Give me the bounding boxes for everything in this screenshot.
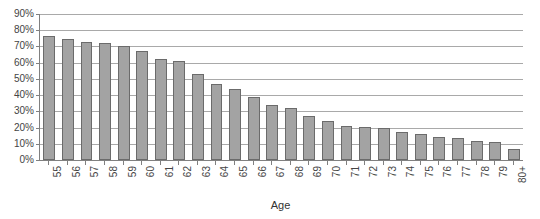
y-axis-tick-label: 30% bbox=[14, 106, 34, 116]
bar-slot bbox=[430, 14, 449, 160]
bar[interactable] bbox=[452, 138, 464, 160]
bar[interactable] bbox=[118, 46, 130, 160]
bar[interactable] bbox=[378, 128, 390, 160]
x-axis-tick-slot bbox=[169, 161, 188, 165]
x-axis-tick-mark bbox=[476, 161, 477, 165]
x-axis-label-slot: 71 bbox=[336, 166, 355, 196]
x-axis-tick-mark bbox=[85, 161, 86, 165]
x-axis-tick-slot bbox=[113, 161, 132, 165]
bar-slot bbox=[486, 14, 505, 160]
bar-slot bbox=[151, 14, 170, 160]
y-axis-tick-label: 20% bbox=[14, 123, 34, 133]
bar[interactable] bbox=[471, 141, 483, 160]
x-axis-label-slot: 67 bbox=[262, 166, 281, 196]
bar[interactable] bbox=[173, 61, 185, 160]
y-axis-tick-label: 90% bbox=[14, 9, 34, 19]
x-axis-tick-mark bbox=[401, 161, 402, 165]
x-axis-tick-mark bbox=[438, 161, 439, 165]
x-axis-tick-slot bbox=[318, 161, 337, 165]
x-axis-label-slot: 79 bbox=[485, 166, 504, 196]
y-axis-tick-label: 80% bbox=[14, 25, 34, 35]
x-axis-tick-mark bbox=[123, 161, 124, 165]
x-axis-tick-slot bbox=[150, 161, 169, 165]
y-axis-tick-label: 50% bbox=[14, 74, 34, 84]
bar-slot bbox=[393, 14, 412, 160]
x-axis-tick-slot bbox=[58, 161, 77, 165]
bar[interactable] bbox=[211, 84, 223, 160]
x-axis-tick-slot bbox=[95, 161, 114, 165]
bar[interactable] bbox=[433, 137, 445, 160]
bars-layer bbox=[40, 14, 523, 160]
plot-area bbox=[39, 14, 523, 161]
bar[interactable] bbox=[99, 43, 111, 160]
x-axis-label-slot: 73 bbox=[373, 166, 392, 196]
bar-slot bbox=[282, 14, 301, 160]
x-axis-label-slot: 56 bbox=[58, 166, 77, 196]
x-axis-label-slot: 66 bbox=[243, 166, 262, 196]
bar-slot bbox=[226, 14, 245, 160]
x-axis-label-slot: 76 bbox=[429, 166, 448, 196]
bar[interactable] bbox=[341, 126, 353, 160]
bar-slot bbox=[189, 14, 208, 160]
bar[interactable] bbox=[508, 149, 520, 160]
x-axis-tick-mark bbox=[308, 161, 309, 165]
x-axis-tick-slot bbox=[188, 161, 207, 165]
bar[interactable] bbox=[155, 59, 167, 160]
x-axis-tick-mark bbox=[215, 161, 216, 165]
bar[interactable] bbox=[136, 51, 148, 160]
bar[interactable] bbox=[81, 42, 93, 160]
x-axis-tick-slot bbox=[262, 161, 281, 165]
x-axis-label-slot: 65 bbox=[225, 166, 244, 196]
x-axis-tick-slot bbox=[39, 161, 58, 165]
x-axis-labels: 5556575859606162636465666768697071727374… bbox=[39, 166, 522, 196]
bar[interactable] bbox=[285, 108, 297, 160]
x-axis-label-slot: 59 bbox=[113, 166, 132, 196]
x-axis-label-slot: 70 bbox=[318, 166, 337, 196]
bar[interactable] bbox=[322, 121, 334, 160]
bar[interactable] bbox=[396, 132, 408, 160]
x-axis-tick-mark bbox=[178, 161, 179, 165]
x-axis-tick-mark bbox=[346, 161, 347, 165]
bar[interactable] bbox=[192, 74, 204, 160]
x-axis-tick-slot bbox=[336, 161, 355, 165]
x-axis-label-slot: 68 bbox=[281, 166, 300, 196]
x-axis-label-slot: 64 bbox=[206, 166, 225, 196]
bar-slot bbox=[114, 14, 133, 160]
bar-slot bbox=[96, 14, 115, 160]
x-axis-tick-slot bbox=[299, 161, 318, 165]
bar[interactable] bbox=[266, 105, 278, 160]
x-axis-tick-mark bbox=[327, 161, 328, 165]
bar[interactable] bbox=[248, 97, 260, 160]
x-axis-tick-slot bbox=[281, 161, 300, 165]
x-axis-tick-slot bbox=[373, 161, 392, 165]
bar-slot bbox=[263, 14, 282, 160]
bar-slot bbox=[59, 14, 78, 160]
bar[interactable] bbox=[359, 127, 371, 160]
bar-slot bbox=[77, 14, 96, 160]
y-axis-tick-label: 10% bbox=[14, 139, 34, 149]
x-axis-tick-slot bbox=[355, 161, 374, 165]
bar[interactable] bbox=[229, 89, 241, 160]
x-axis-tick-mark bbox=[104, 161, 105, 165]
x-axis-tick-mark bbox=[290, 161, 291, 165]
bar[interactable] bbox=[62, 39, 74, 160]
bar[interactable] bbox=[43, 36, 55, 160]
x-axis-tick-slot bbox=[206, 161, 225, 165]
x-axis-tick-slot bbox=[503, 161, 522, 165]
x-axis-label-slot: 55 bbox=[39, 166, 58, 196]
x-axis-label-slot: 72 bbox=[355, 166, 374, 196]
x-axis-label-slot: 74 bbox=[392, 166, 411, 196]
bar-slot bbox=[207, 14, 226, 160]
y-axis-tick-label: 0% bbox=[20, 155, 34, 165]
x-axis-tick-slot bbox=[448, 161, 467, 165]
x-axis-tick-slot bbox=[243, 161, 262, 165]
bar[interactable] bbox=[489, 142, 501, 160]
x-axis-tick-mark bbox=[48, 161, 49, 165]
x-axis-label-slot: 57 bbox=[76, 166, 95, 196]
x-axis-tick-slot bbox=[485, 161, 504, 165]
x-axis-tick-label: 80+ bbox=[518, 166, 528, 183]
x-axis-label-slot: 58 bbox=[95, 166, 114, 196]
x-axis-tick-mark bbox=[364, 161, 365, 165]
bar[interactable] bbox=[415, 134, 427, 160]
bar[interactable] bbox=[303, 116, 315, 160]
